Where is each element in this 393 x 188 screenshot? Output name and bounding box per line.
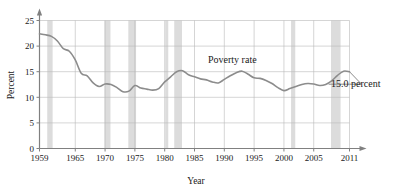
x-tick-label: 1959	[31, 153, 50, 163]
poverty-rate-chart: 1959196519701975198019851990199520002005…	[0, 0, 393, 188]
recession-band-group	[47, 21, 340, 149]
y-axis-title: Percent	[6, 70, 16, 99]
x-tick-label: 1995	[245, 153, 264, 163]
y-tick-group: 0510152025	[25, 16, 40, 154]
end-value-annotation: 15.0 percent	[331, 78, 381, 89]
x-axis-arrow-icon	[360, 146, 367, 151]
recession-band	[174, 21, 182, 149]
x-tick-label: 1965	[66, 153, 85, 163]
y-tick-label: 15	[25, 67, 35, 77]
y-tick-label: 5	[30, 118, 35, 128]
x-tick-label: 1975	[126, 153, 145, 163]
y-tick-label: 10	[25, 93, 35, 103]
y-tick-label: 20	[25, 41, 35, 51]
x-tick-label: 1990	[215, 153, 234, 163]
x-tick-label: 2000	[275, 153, 294, 163]
x-axis-title: Year	[187, 176, 205, 186]
x-tick-group: 1959196519701975198019851990199520002005…	[31, 149, 359, 164]
recession-band	[165, 21, 168, 149]
chart-canvas: 1959196519701975198019851990199520002005…	[0, 0, 393, 188]
x-tick-label: 2011	[341, 153, 359, 163]
x-tick-label: 1985	[186, 153, 205, 163]
x-tick-label: 1980	[156, 153, 175, 163]
y-tick-label: 0	[30, 144, 35, 154]
recession-band	[47, 21, 52, 149]
series-label-poverty-rate: Poverty rate	[208, 54, 257, 65]
x-tick-label: 2005	[305, 153, 324, 163]
y-tick-label: 25	[25, 16, 35, 26]
y-axis-arrow-icon	[37, 9, 42, 16]
x-tick-label: 1970	[96, 153, 115, 163]
recession-band	[291, 21, 295, 149]
